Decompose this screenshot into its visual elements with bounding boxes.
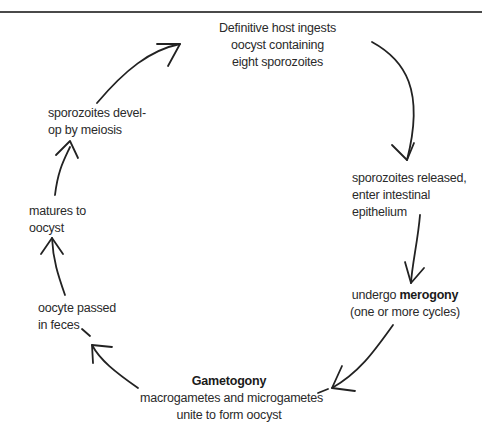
stage-matures-line-2: oocyst — [29, 220, 86, 237]
arrow-passed-to-matures — [41, 238, 65, 295]
stage-passed-line-1: oocyte passed — [38, 300, 116, 317]
stage-gametogony-line-2: unite to form oocyst — [140, 407, 318, 424]
stage-gametogony: Gametogony macrogametes and microgametes… — [140, 373, 318, 424]
arrow-matures-to-meiosis — [55, 141, 78, 195]
stage-release-line-3: epithelium — [352, 204, 467, 221]
stage-matures: matures to oocyst — [29, 203, 86, 237]
stage-ingest: Definitive host ingests oocyst containin… — [190, 20, 365, 71]
stage-merogony-line-1: undergo merogony — [330, 287, 480, 304]
stage-ingest-line-1: Definitive host ingests — [190, 20, 365, 37]
stage-release-line-1: sporozoites released, — [352, 170, 467, 187]
arrow-gametogony-to-passed — [82, 329, 138, 388]
stage-gametogony-line-1: macrogametes and microgametes — [140, 390, 318, 407]
stage-merogony-line-2: (one or more cycles) — [330, 304, 480, 321]
arrow-merogony-to-gametogony — [318, 325, 393, 393]
stage-matures-line-1: matures to — [29, 203, 86, 220]
stage-release: sporozoites released, enter intestinal e… — [352, 170, 467, 221]
stage-release-line-2: enter intestinal — [352, 187, 467, 204]
stage-passed-line-2: in feces — [38, 317, 116, 334]
stage-merogony-prefix: undergo — [352, 288, 400, 302]
stage-passed: oocyte passed in feces — [38, 300, 116, 334]
stage-ingest-line-3: eight sporozoites — [190, 54, 365, 71]
stage-meiosis-line-1: sporozoites devel- — [48, 105, 146, 122]
stage-ingest-line-2: oocyst containing — [190, 37, 365, 54]
stage-merogony-term: merogony — [399, 288, 458, 302]
arrow-ingest-to-release — [372, 42, 414, 160]
stage-gametogony-term: Gametogony — [192, 374, 266, 388]
stage-merogony: undergo merogony (one or more cycles) — [330, 287, 480, 321]
stage-meiosis: sporozoites devel- op by meiosis — [48, 105, 146, 139]
arrow-meiosis-to-ingest — [97, 44, 180, 103]
arrow-release-to-merogony — [405, 215, 424, 283]
stage-meiosis-line-2: op by meiosis — [48, 122, 146, 139]
